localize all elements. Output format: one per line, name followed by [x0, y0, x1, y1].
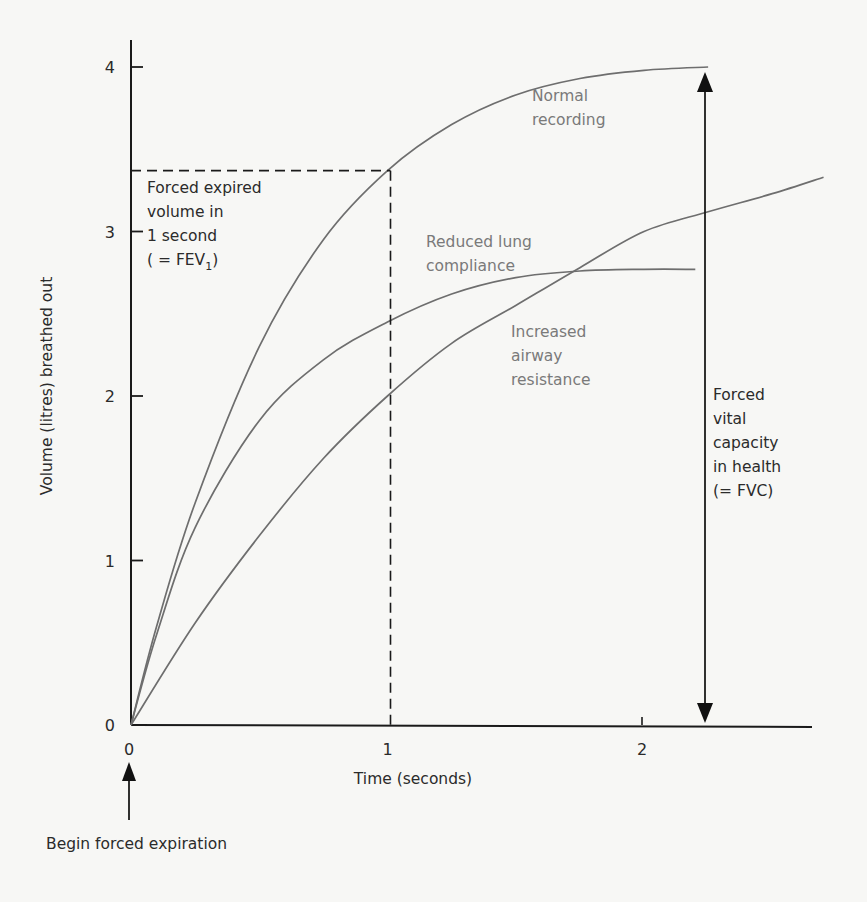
arrow-up-icon	[697, 72, 713, 92]
y-tick-label: 0	[105, 716, 115, 735]
x-axis-label: Time (seconds)	[353, 770, 472, 788]
fev1-label: Forced expired volume in 1 second ( = FE…	[147, 179, 267, 273]
x-ticks: 012	[124, 717, 647, 759]
normal-recording-curve	[131, 67, 708, 725]
arrow-up-icon	[122, 762, 136, 781]
spirometry-chart: 01234 012 Volume (litres) breathed out T…	[0, 0, 867, 902]
x-tick-label: 1	[382, 740, 392, 759]
reduced-compliance-curve	[131, 269, 695, 725]
normal-recording-label: Normal recording	[532, 87, 605, 129]
y-ticks: 01234	[105, 58, 143, 735]
y-tick-label: 4	[105, 58, 115, 77]
axes: 01234 012 Volume (litres) breathed out T…	[38, 40, 812, 788]
x-tick-label: 2	[637, 740, 647, 759]
begin-expiration-label: Begin forced expiration	[46, 835, 227, 853]
y-tick-label: 1	[105, 552, 115, 571]
fvc-arrow	[697, 72, 713, 723]
x-axis	[131, 725, 812, 727]
y-axis-label: Volume (litres) breathed out	[38, 277, 56, 495]
fvc-label: Forced vital capacity in health (= FVC)	[713, 386, 786, 500]
x-tick-label: 0	[124, 740, 134, 759]
reduced-compliance-label: Reduced lung compliance	[426, 233, 537, 275]
arrow-down-icon	[697, 703, 713, 723]
airway-resistance-label: Increased airway resistance	[511, 323, 591, 389]
y-tick-label: 3	[105, 223, 115, 242]
begin-expiration-arrow	[122, 762, 136, 820]
y-tick-label: 2	[105, 387, 115, 406]
